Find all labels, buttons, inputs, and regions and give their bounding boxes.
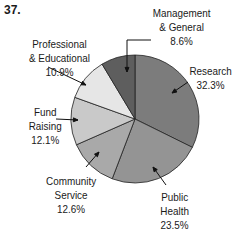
label-public-health: Public Health 23.5% — [160, 190, 189, 232]
label-community-service: Community Service 12.6% — [46, 174, 96, 216]
label-professional-educational: Professional & Educational 10.9% — [29, 37, 90, 79]
label-management-general: Management & General 8.6% — [153, 6, 211, 48]
label-research: Research 32.3% — [189, 64, 231, 92]
pie-slices — [71, 55, 199, 183]
label-fund-raising: Fund Raising 12.1% — [29, 105, 62, 147]
